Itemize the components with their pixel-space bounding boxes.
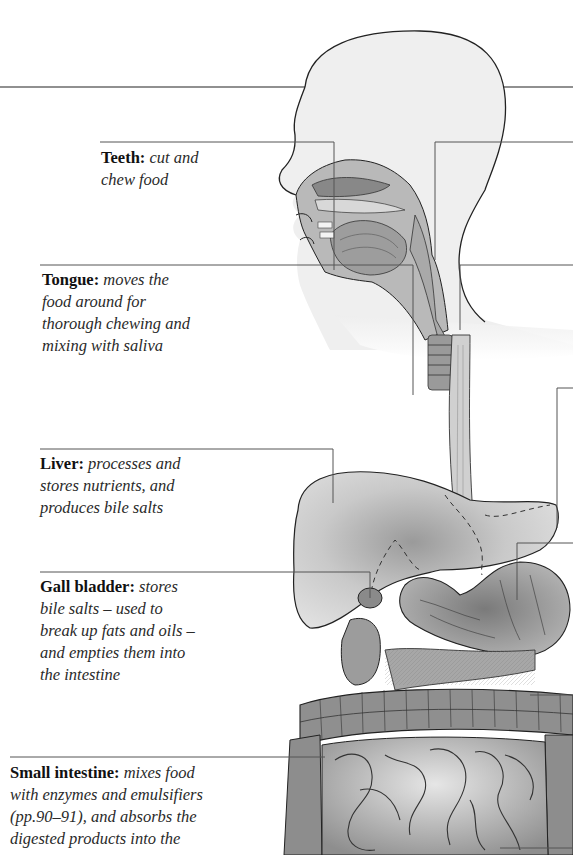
label-description: the intestine (40, 665, 120, 684)
label-description: stores (139, 577, 178, 596)
label-description: mixing with saliva (42, 336, 163, 355)
label-term: Gall bladder: (40, 577, 135, 596)
label-description: processes and (88, 454, 180, 473)
label-description: chew food (101, 170, 168, 189)
label-description: cut and (149, 148, 198, 167)
label-gall-bladder: Gall bladder: stores bile salts – used t… (40, 576, 195, 686)
label-description: bile salts – used to (40, 599, 163, 618)
small-intestine (322, 737, 548, 855)
label-description: break up fats and oils – (40, 621, 195, 640)
label-liver: Liver: processes and stores nutrients, a… (40, 453, 181, 519)
label-term: Small intestine: (10, 763, 120, 782)
label-description: with enzymes and emulsifiers (10, 785, 203, 804)
trachea (428, 335, 453, 390)
label-teeth: Teeth: cut and chew food (101, 147, 198, 191)
label-tongue: Tongue: moves the food around for thorou… (42, 269, 190, 357)
label-description: produces bile salts (40, 498, 163, 517)
label-description: digested products into the (10, 829, 180, 848)
label-description: food around for (42, 292, 146, 311)
label-term: Tongue: (42, 270, 99, 289)
anatomy-illustration (0, 0, 573, 855)
label-term: Liver: (40, 454, 84, 473)
label-description: and empties them into (40, 643, 185, 662)
digestive-system-diagram: Teeth: cut and chew food Tongue: moves t… (0, 0, 573, 855)
label-small-intestine: Small intestine: mixes food with enzymes… (10, 762, 203, 850)
stomach (400, 562, 570, 656)
label-description: mixes food (124, 763, 195, 782)
label-description: (pp.90–91), and absorbs the (10, 807, 197, 826)
label-description: stores nutrients, and (40, 476, 175, 495)
label-description: thorough chewing and (42, 314, 190, 333)
label-description: moves the (103, 270, 169, 289)
label-term: Teeth: (101, 148, 145, 167)
